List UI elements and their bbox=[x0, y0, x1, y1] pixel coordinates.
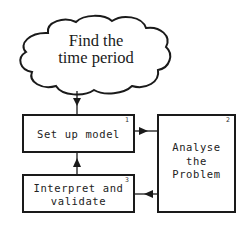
box-label-line: Interpret and bbox=[24, 182, 133, 195]
box-label: Analyse the Problem bbox=[159, 141, 234, 182]
flowchart-canvas: Find the time period 1 Set up model 2 An… bbox=[0, 0, 247, 229]
box-set-up-model: 1 Set up model bbox=[22, 114, 135, 153]
box-label-line: the bbox=[159, 155, 234, 169]
arrow-interpret-to-setup bbox=[73, 153, 81, 174]
box-label-line: Analyse bbox=[159, 141, 234, 155]
box-number: 2 bbox=[226, 117, 230, 124]
arrow-setup-to-analyse bbox=[135, 127, 157, 135]
box-analyse-the-problem: 2 Analyse the Problem bbox=[157, 114, 236, 213]
arrow-analyse-to-interpret bbox=[135, 190, 157, 198]
box-interpret-and-validate: 3 Interpret and validate bbox=[22, 174, 135, 213]
box-label-line: validate bbox=[24, 195, 133, 208]
box-label: Set up model bbox=[24, 128, 133, 140]
box-label: Interpret and validate bbox=[24, 182, 133, 208]
box-number: 1 bbox=[125, 117, 129, 124]
cloud-line-1: Find the bbox=[22, 32, 170, 49]
start-cloud-label: Find the time period bbox=[22, 32, 170, 66]
box-label-line: Problem bbox=[159, 168, 234, 182]
cloud-line-2: time period bbox=[22, 49, 170, 66]
box-label-line: Set up model bbox=[24, 128, 133, 140]
